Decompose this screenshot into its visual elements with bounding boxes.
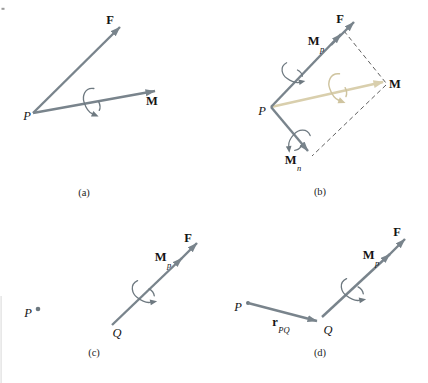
caption-a: (a): [78, 188, 90, 199]
label-P-d: P: [234, 301, 242, 314]
label-P-b: P: [258, 105, 266, 118]
panel-a: [33, 27, 155, 119]
label-rPQ-d: rPQ: [272, 316, 289, 331]
parallelogram-dashed-line-top: [344, 31, 386, 83]
label-Mp-b: Mp: [308, 35, 325, 50]
label-F-d: F: [393, 226, 401, 239]
label-P-c: P: [24, 307, 32, 320]
label-M-a: M: [146, 95, 158, 108]
moment-vector-M-faded: [271, 82, 383, 107]
panel-d: [246, 239, 405, 321]
caption-d: (d): [314, 348, 326, 359]
label-Mn-sub: n: [297, 162, 301, 172]
label-Mn-b: Mn: [285, 154, 302, 169]
label-Mp-main: M: [363, 248, 375, 262]
mechanics-figure: F M P (a) F Mp M Mn P (b) F Mp P Q (c) F…: [0, 0, 428, 383]
force-vector-F: [388, 239, 405, 256]
label-Q-d: Q: [323, 324, 332, 337]
normal-component-vector-Mn: [271, 107, 308, 151]
label-Mp-main: M: [155, 250, 167, 264]
label-r-sub: PQ: [278, 324, 289, 334]
force-vector-F: [179, 243, 197, 261]
label-Mp-sub: p: [167, 259, 171, 269]
panel-c: [36, 243, 197, 325]
label-P-a: P: [23, 110, 31, 123]
label-r-main: r: [272, 315, 278, 329]
caption-b: (b): [314, 187, 326, 198]
caption-c: (c): [88, 348, 100, 359]
panel-b: [271, 22, 386, 156]
label-Q-c: Q: [112, 327, 121, 340]
page-edge-artifact: [1, 296, 2, 383]
label-F-a: F: [106, 14, 114, 27]
label-Mp-main: M: [308, 34, 320, 48]
point-P-dot: [36, 307, 41, 312]
label-M-b: M: [389, 78, 401, 91]
label-Mp-sub: p: [375, 257, 379, 267]
label-F-c: F: [184, 232, 192, 245]
label-Mp-c: Mp: [155, 251, 172, 266]
label-Mp-sub: p: [320, 43, 324, 53]
rotation-arc-faded: [327, 73, 349, 106]
moment-vector-Mp: [322, 254, 390, 317]
label-Mn-main: M: [285, 153, 297, 167]
scan-speck: [2, 8, 5, 10]
figure-canvas: [0, 0, 428, 383]
label-Mp-d: Mp: [363, 249, 380, 264]
rotation-arc: [337, 276, 368, 307]
label-F-b: F: [336, 13, 344, 26]
